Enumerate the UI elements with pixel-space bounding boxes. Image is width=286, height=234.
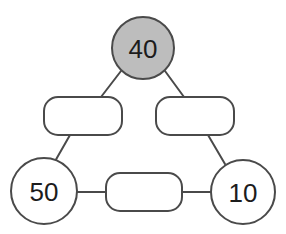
node-bottom-box[interactable] [106, 173, 182, 211]
bottom-left-circle-label: 50 [30, 177, 59, 207]
node-left-box[interactable] [44, 97, 122, 135]
node-top-circle[interactable]: 40 [112, 17, 174, 79]
top-circle-label: 40 [129, 34, 158, 64]
node-layer: 40 50 [11, 17, 275, 224]
right-box-shape[interactable] [156, 97, 234, 135]
node-right-box[interactable] [156, 97, 234, 135]
bottom-right-circle-label: 10 [229, 178, 258, 208]
node-bottom-right-circle[interactable]: 10 [211, 160, 275, 224]
edge-left-box-to-bottom-left-circle [54, 135, 70, 163]
bottom-box-shape[interactable] [106, 173, 182, 211]
node-bottom-left-circle[interactable]: 50 [11, 158, 77, 224]
left-box-shape[interactable] [44, 97, 122, 135]
diagram-canvas: 40 50 [0, 0, 286, 234]
number-triangle-diagram: 40 50 [0, 0, 286, 234]
edge-top-to-right-box [165, 71, 184, 97]
edge-top-to-left-box [101, 71, 121, 97]
edge-right-box-to-bottom-right-circle [208, 135, 225, 164]
